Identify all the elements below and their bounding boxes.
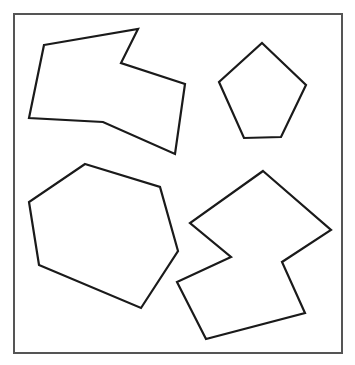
hexagon-bottom-left [29,164,178,308]
irregular-heptagon-top-left [29,29,185,154]
polygon-diagram [0,0,355,365]
shapes-group [29,29,331,339]
zigzag-octagon-bottom-right [177,171,331,339]
pentagon-top-right [219,43,306,138]
outer-frame [14,14,342,353]
